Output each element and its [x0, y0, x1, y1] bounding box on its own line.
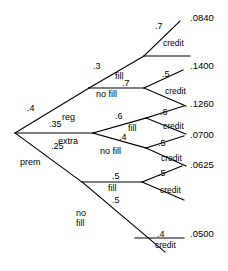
probability-credit-4: .5	[158, 139, 166, 148]
probability-credit-3: .6	[160, 108, 168, 117]
branch-label-credit-3: credit	[163, 122, 184, 131]
probability-prem-nofill: .5	[112, 196, 120, 205]
branch-label-extra-fill: fill	[128, 124, 137, 133]
probability-credit-1: .7	[155, 22, 163, 31]
branch-label-extra: extra	[58, 137, 78, 146]
outcome-value-6: .0500	[190, 229, 214, 239]
branch-label-credit-1: credit	[163, 39, 184, 48]
probability-credit-6: .4	[157, 230, 165, 239]
probability-credit-2: .5	[162, 70, 170, 79]
branch-label-prem-nofill-line1: no	[76, 208, 86, 218]
outcome-value-3: .1260	[190, 99, 214, 109]
branch-prem-nofill	[82, 182, 165, 252]
branch-label-credit-6: credit	[155, 241, 176, 250]
branch-label-reg-nofill: no fill	[96, 90, 117, 99]
probability-reg-nofill: .7	[122, 79, 130, 88]
branch-label-prem-nofill: no fill	[76, 208, 86, 229]
probability-extra-nofill: .4	[119, 133, 127, 142]
probability-reg-fill: .3	[93, 62, 101, 71]
branch-label-credit-2: credit	[165, 87, 186, 96]
branch-label-reg: reg	[62, 113, 75, 122]
probability-extra: .35	[49, 120, 62, 129]
outcome-value-5: .0625	[190, 160, 214, 170]
probability-tree-diagram: .4 .35 .25 reg extra prem .3 fill .7 no …	[0, 0, 228, 271]
probability-prem-fill: .5	[112, 172, 120, 181]
branch-label-credit-4: credit	[161, 154, 182, 163]
probability-reg: .4	[27, 104, 35, 113]
branch-label-credit-5: credit	[160, 186, 181, 195]
branch-label-prem-nofill-line2: fill	[76, 218, 86, 228]
outcome-value-4: .0700	[190, 130, 214, 140]
probability-credit-5: .5	[158, 169, 166, 178]
branch-label-extra-nofill: no fill	[100, 147, 121, 156]
outcome-value-2: .1400	[190, 61, 214, 71]
branch-label-prem-fill: fill	[108, 184, 117, 193]
probability-extra-fill: .6	[115, 112, 123, 121]
outcome-value-1: .0840	[190, 13, 214, 23]
branch-label-prem: prem	[20, 158, 41, 167]
